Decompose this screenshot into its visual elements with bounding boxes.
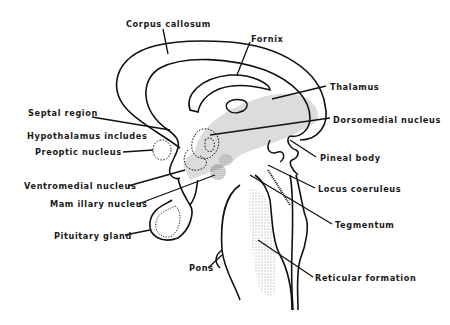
label-thalamus: Thalamus (330, 82, 379, 92)
label-pineal-body: Pineal body (320, 153, 381, 163)
label-hypothalamus-includes: Hypothalamus includes (27, 131, 147, 141)
label-ventromedial-nucleus: Ventromedial nucleus (24, 181, 136, 191)
label-reticular-formation: Reticular formation (315, 273, 416, 283)
pituitary-dotted (156, 206, 180, 237)
brain-diagram: Corpus callosum Fornix Thalamus Septal r… (0, 0, 450, 325)
label-tegmentum: Tegmentum (335, 220, 395, 230)
label-septal-region: Septal region (28, 108, 98, 118)
label-pituitary-gland: Pituitary gland (54, 231, 132, 241)
label-preoptic-nucleus: Preoptic nucleus (35, 147, 122, 157)
pons-outline (222, 185, 240, 300)
preoptic-nucleus-outline (153, 140, 171, 160)
label-corpus-callosum: Corpus callosum (126, 19, 211, 29)
reticular-formation-area (249, 188, 275, 296)
mamillary-nucleus-dots (210, 164, 226, 180)
label-locus-coeruleus: Locus coeruleus (318, 184, 401, 194)
label-mamillary-nucleus: Mam illary nucleus (50, 199, 148, 209)
label-fornix: Fornix (251, 34, 283, 44)
label-dorsomedial-nucleus: Dorsomedial nucleus (333, 115, 441, 125)
label-pons: Pons (189, 263, 214, 273)
